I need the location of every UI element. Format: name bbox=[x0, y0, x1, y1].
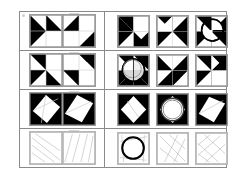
row-1-divider bbox=[104, 12, 105, 50]
row-3-problem-pair bbox=[29, 92, 96, 130]
row-3-option-2-ring bbox=[161, 98, 184, 121]
row-1-option-3[interactable] bbox=[195, 15, 228, 48]
plate-corner-mark bbox=[22, 14, 25, 17]
matrix-row-2 bbox=[20, 51, 226, 90]
puzzle-plate-frame bbox=[19, 11, 227, 168]
row-3-option-2[interactable] bbox=[156, 93, 189, 126]
row-2-problem-tile-1 bbox=[29, 53, 63, 87]
row-1-problem-pair bbox=[29, 14, 96, 52]
matrix-row-1 bbox=[20, 12, 226, 51]
row-3-option-1[interactable] bbox=[117, 93, 150, 126]
matrix-row-4 bbox=[20, 129, 226, 167]
row-2-divider bbox=[104, 51, 105, 89]
row-3-problem-tile-2 bbox=[62, 92, 96, 126]
row-1-problem-tile-1 bbox=[29, 14, 63, 48]
row-1-problem-tile-2 bbox=[62, 14, 96, 48]
row-3-divider bbox=[104, 90, 105, 128]
matrix-row-3 bbox=[20, 90, 226, 129]
row-4-problem-tile-2 bbox=[62, 131, 96, 165]
row-2-problem-tile-2 bbox=[62, 53, 96, 87]
row-1-option-1[interactable] bbox=[117, 15, 150, 48]
row-2-problem-pair bbox=[29, 53, 96, 91]
row-2-option-1[interactable] bbox=[117, 54, 150, 87]
row-1-option-2[interactable] bbox=[156, 15, 189, 48]
row-4-option-2[interactable] bbox=[156, 132, 189, 165]
row-4-problem-pair bbox=[29, 131, 96, 169]
row-4-option-1[interactable] bbox=[117, 132, 150, 165]
row-2-option-1-double-circle bbox=[122, 59, 144, 81]
row-3-option-3[interactable] bbox=[195, 93, 228, 126]
row-2-option-3[interactable] bbox=[195, 54, 228, 87]
row-4-divider bbox=[104, 129, 105, 167]
row-4-option-3[interactable] bbox=[195, 132, 228, 165]
row-3-problem-tile-1 bbox=[29, 92, 63, 126]
row-4-problem-tile-1 bbox=[29, 131, 63, 165]
row-2-option-2[interactable] bbox=[156, 54, 189, 87]
page-canvas bbox=[0, 0, 247, 180]
